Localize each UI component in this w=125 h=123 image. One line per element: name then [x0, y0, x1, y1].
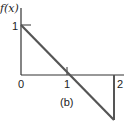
- y-tick-label-1: 1: [12, 21, 18, 32]
- x-tick-label-2: 2: [117, 79, 123, 90]
- x-tick-label-1: 1: [64, 79, 70, 90]
- x-tick-label-0: 0: [18, 79, 24, 90]
- figure-caption: (b): [60, 97, 73, 108]
- y-axis-label: f(x): [0, 3, 19, 14]
